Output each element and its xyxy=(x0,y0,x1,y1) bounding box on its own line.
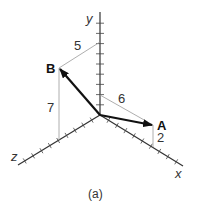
x-axis-label: x xyxy=(175,167,182,180)
b-vertical-label: 7 xyxy=(47,101,54,114)
z-axis-label: z xyxy=(11,150,18,163)
a-horizontal-label: 6 xyxy=(118,92,125,105)
vector-b xyxy=(60,69,100,115)
vector-b-label: B xyxy=(46,62,55,75)
figure-caption: (a) xyxy=(88,188,103,200)
vector-diagram xyxy=(0,0,197,205)
a-vertical-label: 2 xyxy=(157,131,164,144)
b-horizontal-label: 5 xyxy=(74,39,81,52)
y-axis-label: y xyxy=(86,12,93,25)
